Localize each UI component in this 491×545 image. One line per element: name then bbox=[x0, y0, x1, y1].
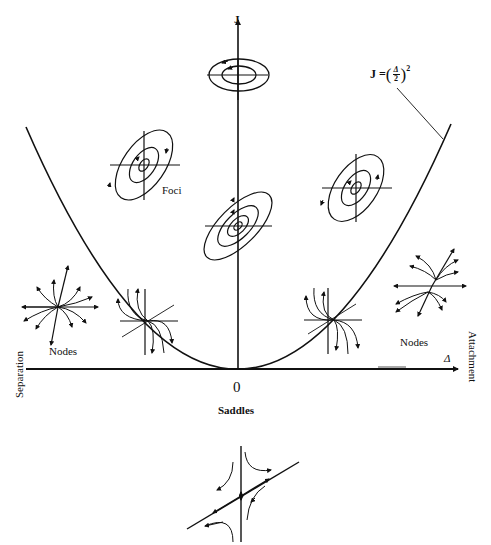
degenerate-node-inset-left bbox=[118, 289, 178, 355]
foci-label: Foci bbox=[162, 184, 182, 196]
node-inset-left bbox=[22, 266, 98, 345]
focus-inset-left bbox=[104, 120, 184, 210]
equation-lhs: J = bbox=[370, 67, 386, 82]
origin-label: 0 bbox=[233, 379, 241, 396]
equation-denominator: 2 bbox=[394, 75, 398, 83]
curve-label-leader bbox=[397, 88, 443, 139]
center-inset bbox=[207, 58, 269, 100]
saddle-inset bbox=[187, 446, 299, 542]
curve-equation-label: J = ( Δ 2 ) 2 bbox=[370, 66, 410, 83]
saddles-label: Saddles bbox=[218, 404, 254, 416]
phase-diagram-canvas bbox=[0, 0, 491, 545]
j-axis-label: J bbox=[234, 13, 240, 25]
focus-inset-right bbox=[317, 145, 395, 231]
paren-open: ( bbox=[386, 67, 392, 83]
equation-fraction: Δ 2 bbox=[393, 66, 400, 83]
nodes-right-label: Nodes bbox=[400, 336, 428, 348]
equation-numerator: Δ bbox=[394, 66, 399, 74]
equation-exponent: 2 bbox=[406, 64, 410, 73]
separation-label: Separation bbox=[13, 351, 25, 398]
nodes-left-label: Nodes bbox=[49, 345, 77, 357]
delta-axis-label: Δ bbox=[444, 352, 450, 364]
node-inset-right bbox=[394, 249, 466, 316]
attachment-label: Attachment bbox=[467, 331, 479, 382]
